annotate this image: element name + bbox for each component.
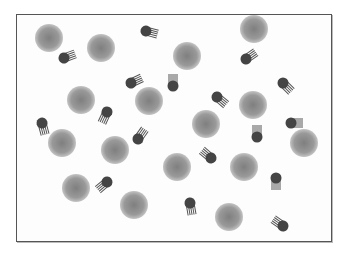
surfactant-molecule xyxy=(198,146,218,166)
surfactant-molecule xyxy=(97,105,114,126)
surfactant-molecule xyxy=(124,73,145,90)
sphere-particle xyxy=(240,15,268,43)
molecule-head xyxy=(57,51,71,65)
surfactant-molecule xyxy=(275,75,295,95)
sphere-particle xyxy=(87,34,115,62)
sphere-particle xyxy=(163,153,191,181)
sphere-particle xyxy=(215,203,243,231)
sphere-particle xyxy=(67,86,95,114)
molecule-head xyxy=(203,150,218,165)
molecule-head xyxy=(35,116,48,129)
molecule-head xyxy=(238,51,253,66)
sphere-particle xyxy=(173,42,201,70)
surfactant-molecule xyxy=(168,74,179,92)
sphere-particle xyxy=(120,191,148,219)
surfactant-molecule xyxy=(35,116,50,136)
surfactant-molecule xyxy=(270,215,291,234)
surfactant-molecule xyxy=(94,174,114,194)
surfactant-molecule xyxy=(57,49,77,65)
sphere-particle xyxy=(192,110,220,138)
sphere-particle xyxy=(101,136,129,164)
molecule-head xyxy=(139,24,152,37)
surfactant-molecule xyxy=(238,48,259,67)
sphere-layer xyxy=(35,15,318,231)
surfactant-molecule xyxy=(209,89,229,109)
molecule-layer xyxy=(35,24,303,233)
sphere-particle xyxy=(35,24,63,52)
molecule-head xyxy=(252,132,263,143)
molecule-head xyxy=(275,218,290,233)
surfactant-molecule xyxy=(139,24,159,39)
sphere-particle xyxy=(135,87,163,115)
sphere-particle xyxy=(230,153,258,181)
surfactant-molecule xyxy=(130,126,149,147)
molecule-head xyxy=(168,81,179,92)
surfactant-molecule xyxy=(184,197,198,216)
molecule-head xyxy=(209,89,224,104)
surfactant-molecule xyxy=(271,173,282,191)
molecule-head xyxy=(130,131,145,146)
surfactant-molecule xyxy=(286,118,304,129)
sphere-particle xyxy=(290,129,318,157)
sphere-particle xyxy=(239,91,267,119)
molecule-head xyxy=(286,118,297,129)
molecule-head xyxy=(271,173,282,184)
sphere-particle xyxy=(48,129,76,157)
sphere-particle xyxy=(62,174,90,202)
molecule-head xyxy=(99,174,114,189)
dispersion-diagram xyxy=(0,0,345,258)
surfactant-molecule xyxy=(252,125,263,143)
